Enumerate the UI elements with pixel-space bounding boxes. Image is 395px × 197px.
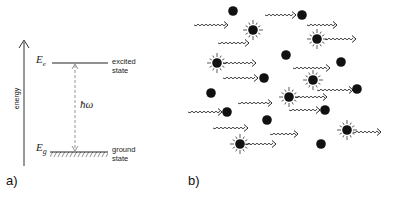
figure-canvas	[0, 0, 395, 197]
photon-arrow	[270, 131, 298, 138]
excited-label-line1: excited	[112, 57, 136, 66]
energy-axis	[19, 40, 29, 166]
photon-arrow	[238, 100, 272, 107]
excited-atom-starburst-icon	[207, 53, 227, 73]
excited-state-label: excitedstate	[112, 57, 136, 75]
energy-axis-label: energy	[13, 79, 20, 119]
ground-label-line1: ground	[112, 145, 135, 154]
photon-arrow	[265, 12, 296, 19]
photon-arrow	[307, 22, 337, 29]
excited-atom-starburst-icon	[303, 70, 323, 90]
photon-energy-label: ħω	[80, 100, 93, 109]
photon-arrow	[223, 60, 256, 67]
ground-state-atom	[206, 88, 216, 98]
photon-arrow	[194, 22, 228, 29]
ground-state-atom	[222, 107, 232, 117]
ground-state-atom	[228, 6, 238, 16]
ground-state-atom	[316, 139, 326, 149]
excited-atom-starburst-icon	[279, 87, 299, 107]
ground-state-atom	[259, 73, 269, 83]
ground-state-atom	[297, 10, 307, 20]
excited-atom-starburst-icon	[243, 20, 263, 40]
panel-a-label: a)	[6, 173, 18, 188]
photon-arrow	[218, 40, 249, 47]
photon-arrow	[188, 109, 222, 116]
photon-arrow	[289, 107, 320, 114]
excited-label-line2: state	[112, 66, 136, 75]
photon-arrow	[353, 129, 381, 136]
ground-label-line2: state	[112, 154, 135, 163]
transition-arrow	[72, 64, 78, 151]
photon-arrow	[317, 87, 353, 94]
excited-atom-starburst-icon	[307, 29, 327, 49]
ground-symbol: E	[36, 141, 43, 153]
ground-state-atom	[320, 105, 330, 115]
scattering-scene	[188, 6, 381, 154]
photon-arrow	[325, 36, 356, 43]
excited-energy-symbol: Ee	[36, 55, 46, 69]
photon-arrow	[293, 65, 330, 72]
ground-energy-symbol: Eg	[36, 143, 47, 156]
ground-state-atom	[262, 115, 272, 125]
ground-state-label: groundstate	[112, 145, 135, 163]
photon-arrow	[295, 94, 327, 101]
ground-state-atom	[352, 84, 362, 94]
photon-arrow	[223, 75, 258, 82]
excited-symbol: E	[36, 53, 43, 65]
excited-subscript: e	[43, 60, 46, 68]
excited-atom-starburst-icon	[337, 120, 357, 140]
excited-atom-starburst-icon	[230, 134, 250, 154]
panel-b-label: b)	[188, 173, 200, 188]
ground-state-atom	[281, 50, 291, 60]
ground-state-atom	[336, 57, 346, 67]
ground-hatching	[50, 152, 108, 157]
photon-arrow	[213, 125, 248, 132]
ground-subscript: g	[43, 147, 47, 156]
